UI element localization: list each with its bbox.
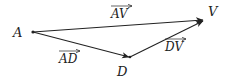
vector-av-label: AV xyxy=(110,7,129,21)
point-v-label: V xyxy=(208,4,219,19)
vector-av-label-group: AV xyxy=(110,6,132,21)
vector-dv-label: DV xyxy=(164,40,184,54)
vector-ad-label: AD xyxy=(58,52,78,66)
point-a-label: A xyxy=(12,25,22,40)
vector-dv-label-group: DV xyxy=(164,39,186,54)
vector-av-line xyxy=(33,20,203,32)
point-d-label: D xyxy=(116,64,128,79)
point-a-dot xyxy=(31,30,34,33)
vector-diagram: A D V AV AD DV xyxy=(0,0,228,80)
vector-ad-label-group: AD xyxy=(58,51,80,66)
point-d-dot xyxy=(129,56,132,59)
vector-ad-line xyxy=(33,32,129,57)
